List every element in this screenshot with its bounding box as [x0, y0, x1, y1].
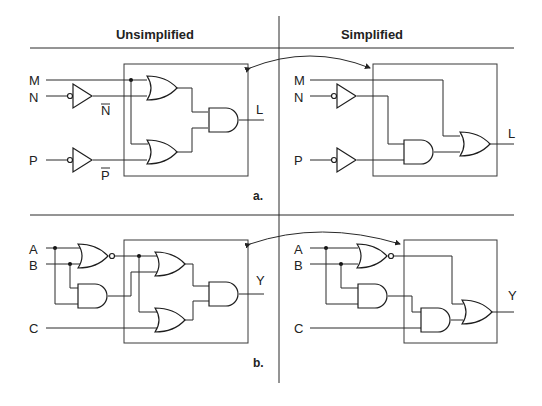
or-gate-icon [147, 140, 177, 164]
header-unsimplified: Unsimplified [116, 27, 194, 42]
and-gate-icon [421, 308, 450, 332]
double-arrow-icon [250, 232, 400, 244]
input-label-b: B [29, 258, 38, 273]
input-label-p: P [29, 153, 38, 168]
svg-text:P: P [294, 153, 303, 168]
svg-text:C: C [294, 321, 303, 336]
svg-text:N: N [294, 90, 303, 105]
svg-text:L: L [508, 126, 515, 141]
svg-text:N: N [101, 103, 110, 118]
input-label-c: C [29, 321, 38, 336]
and-gate-icon [209, 282, 238, 306]
not-gate-icon [332, 84, 357, 108]
nor-gate-icon [357, 244, 387, 268]
or-gate-icon [147, 76, 177, 100]
svg-text:Simplified: Simplified [341, 27, 403, 42]
and-gate-icon [78, 284, 107, 308]
not-gate-icon [68, 148, 93, 172]
or-gate-icon [462, 300, 492, 324]
and-gate-icon [209, 108, 238, 132]
nor-gate-icon [78, 244, 108, 268]
or-gate-icon [155, 308, 185, 332]
panel-a-unsimplified: M N P N P L [29, 64, 264, 183]
svg-text:A: A [294, 242, 303, 257]
svg-text:Unsimplified: Unsimplified [116, 27, 194, 42]
svg-text:P: P [101, 168, 110, 183]
output-label-l: L [256, 102, 263, 117]
and-gate-icon [404, 140, 433, 164]
panel-a-simplified: M N P L [294, 64, 515, 176]
header-simplified: Simplified [341, 27, 403, 42]
svg-text:B: B [294, 258, 303, 273]
panel-b-simplified: A B C Y [294, 240, 517, 343]
highlight-box [373, 64, 497, 176]
logic-simplification-figure: Unsimplified Simplified M N P N P [0, 0, 542, 406]
input-label-a: A [29, 242, 38, 257]
input-label-m: M [29, 73, 40, 88]
svg-text:Y: Y [508, 288, 517, 303]
or-gate-icon [155, 252, 185, 276]
and-gate-icon [358, 284, 387, 308]
not-gate-icon [332, 148, 357, 172]
double-arrow-icon [250, 56, 370, 68]
output-label-y: Y [256, 273, 265, 288]
or-gate-icon [460, 132, 490, 156]
svg-text:M: M [294, 73, 305, 88]
not-gate-icon [68, 84, 93, 108]
input-label-n: N [29, 90, 38, 105]
caption-b: b. [253, 356, 264, 370]
panel-b-unsimplified: A B C Y [29, 240, 265, 343]
caption-a: a. [253, 189, 263, 203]
